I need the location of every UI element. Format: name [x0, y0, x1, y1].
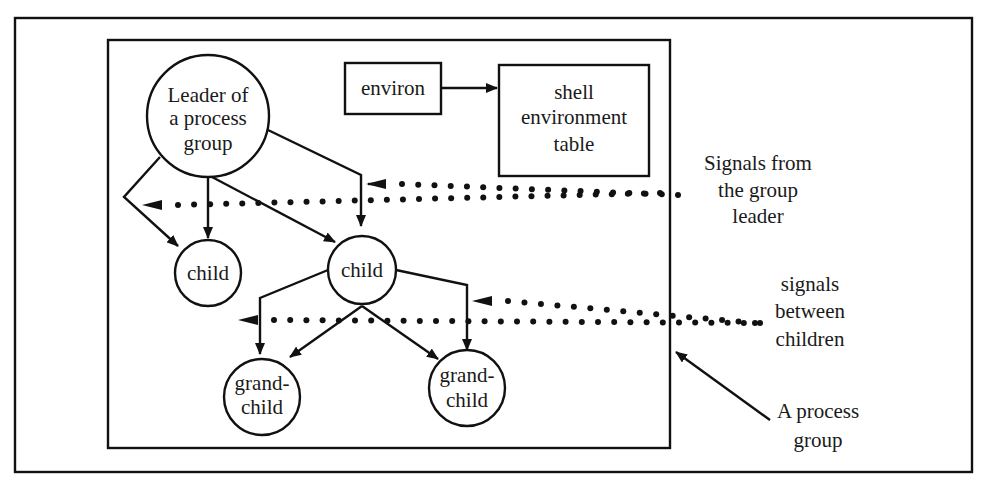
child-right-label: child [341, 258, 383, 282]
node-child-left: child [175, 240, 241, 306]
grandchild-right-line2: child [446, 388, 488, 412]
process-group-diagram: Leader of a process group child child gr… [0, 0, 986, 490]
node-grandchild-left: grand- child [224, 359, 300, 435]
grandchild-left-line2: child [241, 395, 283, 419]
label-signals-between-children: signals between children [775, 272, 845, 351]
node-leader: Leader of a process group [147, 55, 269, 177]
svg-text:group: group [794, 428, 843, 452]
grandchild-left-line1: grand- [235, 371, 290, 395]
svg-text:leader: leader [732, 204, 783, 228]
env-table-line1: shell [554, 80, 594, 104]
grandchild-right-line1: grand- [440, 363, 495, 387]
env-table-line2: environment [521, 105, 627, 129]
label-process-group: A process group [777, 399, 859, 452]
svg-text:between: between [775, 299, 845, 323]
svg-text:Signals from: Signals from [704, 151, 812, 175]
svg-text:the group: the group [718, 178, 798, 202]
signals-between-children-lines [238, 296, 763, 326]
leader-label-line1: Leader of [167, 83, 248, 107]
label-signals-from-leader: Signals from the group leader [704, 151, 812, 228]
svg-text:children: children [776, 327, 845, 351]
leader-label-line2: a process [169, 106, 247, 130]
node-environ: environ [345, 63, 441, 114]
node-grandchild-right: grand- child [429, 350, 505, 426]
svg-text:A process: A process [777, 399, 859, 423]
environ-label: environ [361, 76, 426, 100]
svg-text:signals: signals [781, 272, 839, 296]
node-child-right: child [328, 236, 396, 304]
node-env-table: shell environment table [499, 65, 649, 176]
leader-label-line3: group [184, 131, 233, 155]
env-table-line3: table [554, 132, 595, 156]
child-left-label: child [187, 261, 229, 285]
